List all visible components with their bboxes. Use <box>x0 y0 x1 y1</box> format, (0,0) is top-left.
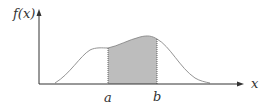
x-axis-label: x <box>251 76 258 91</box>
bound-a-label: a <box>104 90 112 105</box>
bound-b-label: b <box>153 89 161 104</box>
y-axis-label: f(x) <box>13 6 35 21</box>
area-under-curve-diagram <box>0 0 265 108</box>
shaded-area <box>108 36 157 84</box>
y-axis-arrow-icon <box>37 9 42 16</box>
x-axis-arrow-icon <box>237 82 244 87</box>
